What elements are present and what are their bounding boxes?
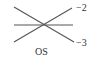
caption-os: OS — [35, 47, 48, 57]
label-minus-3: −3 — [76, 38, 87, 48]
label-minus-2: −2 — [76, 3, 87, 13]
